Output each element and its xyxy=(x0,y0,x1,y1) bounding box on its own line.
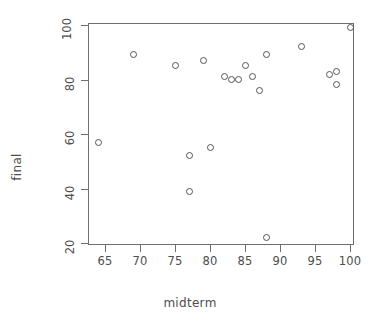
y-axis-tick xyxy=(81,189,88,190)
scatter-plot-figure: final 20406080100 65707580859095100 midt… xyxy=(0,0,380,333)
x-axis-tick-label: 95 xyxy=(295,254,335,268)
x-axis-tick-label: 100 xyxy=(330,254,370,268)
y-axis-tick-label: 40 xyxy=(46,182,78,196)
y-axis-label-text: final xyxy=(10,153,24,180)
y-axis-tick-label-text: 80 xyxy=(64,76,78,91)
y-axis-tick-label: 80 xyxy=(46,73,78,87)
y-axis-tick xyxy=(81,243,88,244)
x-axis-tick-label: 85 xyxy=(225,254,265,268)
y-axis-tick-label: 20 xyxy=(46,236,78,250)
x-axis-tick xyxy=(350,245,351,252)
y-axis-tick xyxy=(81,25,88,26)
x-axis-tick xyxy=(315,245,316,252)
x-axis-tick-label: 90 xyxy=(260,254,300,268)
y-axis-tick-label: 100 xyxy=(46,18,78,32)
y-axis-tick-label-text: 100 xyxy=(60,18,74,40)
x-axis-tick-label: 70 xyxy=(120,254,160,268)
x-axis-label-text: midterm xyxy=(163,296,216,310)
y-axis-tick-label-text: 60 xyxy=(64,131,78,146)
y-axis-tick xyxy=(81,80,88,81)
x-axis-tick-label: 80 xyxy=(190,254,230,268)
y-axis-label: final xyxy=(6,0,28,333)
x-axis-tick xyxy=(175,245,176,252)
x-axis-label: midterm xyxy=(0,296,380,310)
y-axis-tick-label-text: 40 xyxy=(64,185,78,200)
x-axis-tick xyxy=(105,245,106,252)
x-axis-tick-label: 65 xyxy=(85,254,125,268)
x-axis-tick xyxy=(210,245,211,252)
x-axis-tick xyxy=(280,245,281,252)
x-axis-tick xyxy=(140,245,141,252)
plot-panel xyxy=(88,23,354,245)
y-axis-tick xyxy=(81,134,88,135)
y-axis-tick-label: 60 xyxy=(46,127,78,141)
x-axis-tick xyxy=(245,245,246,252)
y-axis-tick-label-text: 20 xyxy=(64,240,78,255)
x-axis-tick-label: 75 xyxy=(155,254,195,268)
